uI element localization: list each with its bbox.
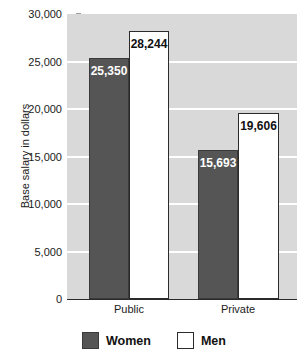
bar-public-women: 25,350 <box>89 58 129 299</box>
category-label-public: Public <box>89 303 169 315</box>
y-tick-label-30000: 30,000 <box>14 8 62 20</box>
y-tick-label-15000: 15,000 <box>14 151 62 163</box>
legend-label-women: Women <box>106 334 151 348</box>
y-tick-label-5000: 5,000 <box>14 246 62 258</box>
legend: Women Men <box>0 332 308 349</box>
bar-value-public-men: 28,244 <box>130 37 168 51</box>
legend-item-men: Men <box>177 332 226 349</box>
bar-chart: Base salary in dollars 30,000 25,000 20,… <box>0 0 308 362</box>
x-axis-baseline <box>67 299 297 300</box>
bar-value-private-men: 19,606 <box>239 119 278 133</box>
category-label-private: Private <box>198 303 278 315</box>
legend-swatch-men-icon <box>177 332 194 349</box>
plot-area: 25,350 28,244 15,693 19,606 <box>67 14 297 299</box>
y-tick-label-10000: 10,000 <box>14 198 62 210</box>
bar-value-public-women: 25,350 <box>90 64 128 78</box>
y-tick-label-25000: 25,000 <box>14 56 62 68</box>
bar-private-women: 15,693 <box>198 150 238 299</box>
y-tick-label-0: 0 <box>14 293 62 305</box>
y-axis-ticks: 30,000 25,000 20,000 15,000 10,000 5,000… <box>14 14 62 299</box>
bar-public-men: 28,244 <box>129 31 169 299</box>
legend-label-men: Men <box>201 334 226 348</box>
bar-value-private-women: 15,693 <box>199 156 237 170</box>
legend-swatch-women-icon <box>82 332 99 349</box>
bar-private-men: 19,606 <box>238 113 279 299</box>
y-tick-label-20000: 20,000 <box>14 103 62 115</box>
legend-item-women: Women <box>82 332 151 349</box>
